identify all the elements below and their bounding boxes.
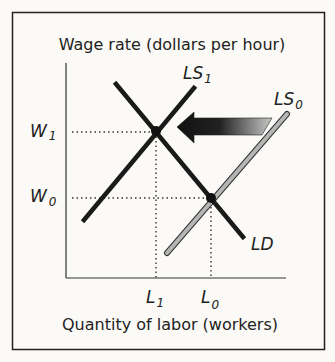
w1-label: W1 [30,121,56,143]
ls0-label: LS0 [274,89,303,112]
w0-label: W0 [30,186,57,209]
x-axis-label: Quantity of labor (workers) [62,315,278,334]
labor-market-chart: Wage rate (dollars per hour) LS1 LS0 LD … [0,0,335,362]
ld-label: LD [251,234,274,254]
l0-label: L0 [201,287,219,312]
equilibrium-point-w1 [151,126,161,136]
ls1-label: LS1 [183,63,212,86]
chart-frame [13,13,325,350]
l1-label: L1 [146,287,164,310]
equilibrium-point-w0 [206,193,216,203]
shift-left-arrow-icon [177,112,272,143]
ls1-curve [84,88,194,220]
y-axis-label: Wage rate (dollars per hour) [59,35,286,54]
